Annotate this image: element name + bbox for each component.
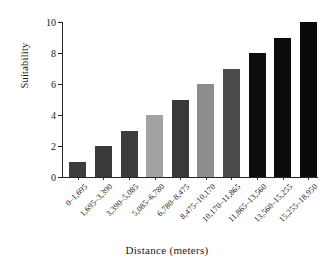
bar (274, 38, 291, 178)
x-tick-mark (103, 177, 104, 180)
x-tick-mark (308, 177, 309, 180)
x-tick-mark (206, 177, 207, 180)
x-tick-mark (180, 177, 181, 180)
bar (146, 115, 163, 177)
plot-area: 0246810 0–1,6951,695–3,3903,390–5,0855,0… (62, 22, 318, 177)
bar (223, 69, 240, 178)
y-tick-mark (58, 146, 62, 147)
bar (95, 146, 112, 177)
y-tick-label: 8 (51, 48, 56, 59)
x-tick-label: 15,255–18,950 (271, 182, 320, 231)
bar (249, 53, 266, 177)
y-tick-label: 4 (51, 110, 56, 121)
x-tick-label: 10,170–11,865 (194, 182, 243, 231)
bar (197, 84, 214, 177)
y-tick-label: 6 (51, 79, 56, 90)
y-tick-mark (58, 22, 62, 23)
y-tick-label: 10 (46, 17, 56, 28)
x-tick-label: 6,780–8,475 (143, 182, 192, 231)
y-tick-label: 0 (51, 172, 56, 183)
y-axis-title: Suitability (19, 6, 30, 126)
x-tick-mark (257, 177, 258, 180)
y-tick-mark (58, 53, 62, 54)
y-axis-line (62, 22, 63, 177)
x-tick-mark (283, 177, 284, 180)
x-tick-label: 1,695–3,390 (66, 182, 115, 231)
x-axis-line (62, 177, 318, 178)
x-axis-title: Distance (meters) (0, 244, 334, 256)
x-tick-mark (231, 177, 232, 180)
x-tick-mark (155, 177, 156, 180)
y-tick-mark (58, 115, 62, 116)
bar (121, 131, 138, 178)
y-tick-mark (58, 84, 62, 85)
bar (172, 100, 189, 178)
bar-chart-figure: Suitability 0246810 0–1,6951,695–3,3903,… (0, 0, 334, 270)
x-tick-mark (129, 177, 130, 180)
y-tick-mark (58, 177, 62, 178)
y-tick-label: 2 (51, 141, 56, 152)
bar (300, 22, 317, 177)
x-tick-mark (78, 177, 79, 180)
bar (69, 162, 86, 178)
